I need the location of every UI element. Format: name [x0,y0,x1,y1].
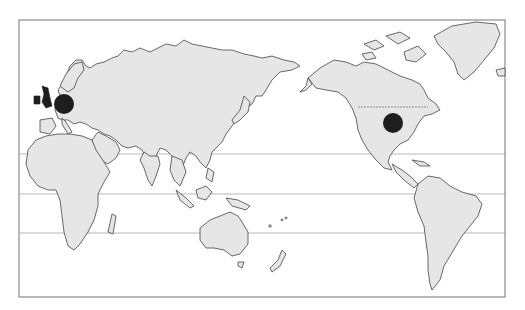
australia [200,212,248,256]
new-zealand [270,250,286,272]
indonesia-borneo [196,186,212,200]
baffin-island [404,46,426,62]
iberia [40,118,56,134]
new-guinea [226,198,250,210]
tasmania [238,262,244,268]
pacific-island [269,225,271,227]
greenland [434,22,500,80]
pacific-island [285,217,287,219]
ireland [34,96,40,104]
united-kingdom [42,86,52,108]
madagascar [108,214,116,234]
iceland [496,68,505,76]
india [140,152,160,186]
central-america [392,164,418,188]
philippines [206,168,214,182]
usa-marker [383,113,403,133]
pacific-island [281,219,283,221]
cuba [412,160,430,166]
north-america [308,60,440,170]
europe-marker [54,94,74,114]
africa [26,134,110,250]
indonesia-sumatra [176,190,194,208]
world-map [0,0,525,310]
arctic-islands-1 [364,40,384,50]
arctic-islands-3 [362,52,376,60]
arctic-islands-2 [386,32,410,44]
